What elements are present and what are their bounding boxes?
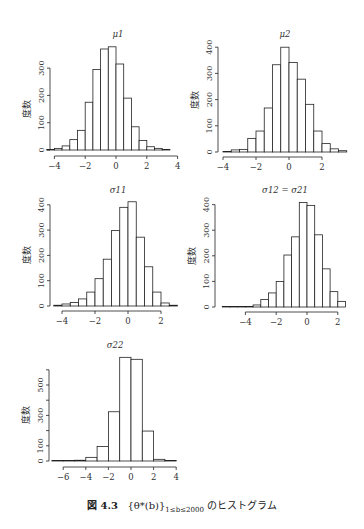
panel-title: σ12 = σ21 xyxy=(262,185,308,195)
histogram-bar xyxy=(87,292,95,306)
histogram-panel-2: 0100200300400度数−4−202μ2 xyxy=(189,29,347,172)
histogram-bar xyxy=(54,148,62,150)
histogram-bar xyxy=(245,306,253,307)
y-axis-label: 度数 xyxy=(20,406,31,424)
caption-subscript: 1≤b≤2000 xyxy=(165,506,203,514)
histogram-panel-3: 0100200300400度数−4−202σ11 xyxy=(21,185,178,326)
histogram-bar xyxy=(289,62,297,152)
x-tick-label: 0 xyxy=(125,316,130,326)
histogram-bar xyxy=(314,131,322,152)
histogram-bar xyxy=(103,259,111,306)
histogram-bar xyxy=(93,69,101,150)
histogram-bar xyxy=(124,98,132,150)
histogram-bar xyxy=(78,130,86,150)
histogram-bar xyxy=(155,148,163,150)
histogram-bar xyxy=(62,304,70,306)
histogram-bar xyxy=(95,279,103,306)
histogram-bar xyxy=(330,292,338,307)
y-tick-label: 300 xyxy=(36,408,45,423)
histogram-bar xyxy=(142,431,153,461)
x-tick-label: 2 xyxy=(151,472,156,482)
y-tick-label: 0 xyxy=(36,458,45,463)
histogram-bar xyxy=(75,460,86,461)
y-tick-label: 300 xyxy=(202,223,211,238)
histogram-bar xyxy=(147,147,155,150)
y-axis-label: 度数 xyxy=(186,247,197,265)
x-tick-label: 0 xyxy=(304,317,309,327)
histogram-bar xyxy=(284,255,292,307)
histogram-bar xyxy=(273,65,281,152)
histogram-bar xyxy=(131,127,139,150)
histogram-bar xyxy=(165,460,176,461)
histogram-bar xyxy=(315,235,323,307)
histogram-bar xyxy=(238,306,246,307)
histogram-bar xyxy=(240,149,248,152)
x-tick-label: 0 xyxy=(113,161,118,171)
histogram-bar xyxy=(292,237,300,307)
figure-caption: 図 4.3 {θ*(b)}1≤b≤2000 のヒストグラム xyxy=(0,497,364,514)
y-tick-label: 300 xyxy=(37,60,46,75)
histogram-bar xyxy=(79,299,87,306)
x-tick-label: −4 xyxy=(239,317,252,327)
y-tick-label: 0 xyxy=(37,303,46,308)
x-tick-label: −4 xyxy=(80,472,93,482)
x-tick-label: 0 xyxy=(128,472,133,482)
histogram-bar xyxy=(131,359,142,461)
y-tick-label: 200 xyxy=(37,248,46,263)
histogram-bar xyxy=(161,303,169,306)
histogram-bar xyxy=(231,150,239,152)
histogram-bar xyxy=(222,306,230,307)
y-tick-label: 200 xyxy=(202,248,211,263)
histogram-bar xyxy=(256,131,264,152)
histogram-bar xyxy=(339,151,347,152)
histogram-bar xyxy=(322,144,330,152)
y-tick-label: 0 xyxy=(205,149,214,154)
histogram-bar xyxy=(63,460,74,461)
histogram-bar xyxy=(276,281,284,307)
caption-text: のヒストグラム xyxy=(207,500,277,511)
histogram-bar xyxy=(70,302,78,306)
histogram-bar xyxy=(261,300,269,307)
histogram-panel-5: 0100300500度数−6−4−2024σ22 xyxy=(20,340,179,482)
panel-title: σ11 xyxy=(110,185,127,195)
x-tick-label: 2 xyxy=(319,162,324,172)
histogram-bar xyxy=(297,79,305,152)
x-tick-label: 4 xyxy=(175,161,180,171)
histogram-bar xyxy=(97,447,108,461)
histogram-bar xyxy=(62,146,70,150)
y-tick-label: 100 xyxy=(205,118,214,133)
x-tick-label: −4 xyxy=(48,161,61,171)
y-tick-label: 400 xyxy=(37,197,46,212)
y-axis-label: 度数 xyxy=(21,100,32,118)
y-tick-label: 0 xyxy=(202,304,211,309)
x-tick-label: −4 xyxy=(217,162,230,172)
histogram-bar xyxy=(338,301,346,307)
histogram-bar xyxy=(322,269,330,307)
histogram-bar xyxy=(253,305,261,307)
histogram-bar xyxy=(330,149,338,152)
y-tick-label: 300 xyxy=(37,222,46,237)
histogram-bar xyxy=(70,140,78,150)
histogram-bar xyxy=(281,47,289,152)
x-tick-label: 2 xyxy=(158,316,163,326)
histogram-bar xyxy=(154,459,165,461)
y-tick-label: 400 xyxy=(205,40,214,55)
histogram-bar xyxy=(306,104,314,152)
histogram-bar xyxy=(139,140,147,150)
histogram-bar xyxy=(120,357,131,461)
x-tick-label: −2 xyxy=(270,317,283,327)
histogram-bar xyxy=(108,47,116,150)
histogram-bar xyxy=(136,237,144,306)
x-tick-label: −2 xyxy=(79,161,92,171)
y-axis-label: 度数 xyxy=(21,246,32,264)
x-tick-label: 2 xyxy=(335,317,340,327)
histogram-bar xyxy=(230,306,238,307)
histogram-panel-4: 0100200300400度数−4−202σ12 = σ21 xyxy=(186,185,346,327)
x-tick-label: −2 xyxy=(102,472,115,482)
histogram-bar xyxy=(223,151,231,152)
caption-label: 図 4.3 xyxy=(87,500,118,511)
histogram-bar xyxy=(86,457,97,461)
histogram-bar xyxy=(116,64,124,150)
x-tick-label: −2 xyxy=(89,316,102,326)
histogram-bar xyxy=(85,102,93,150)
